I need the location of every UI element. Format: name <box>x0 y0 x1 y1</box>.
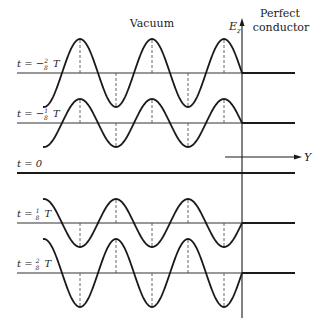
time-snapshots: t = −28 Tt = −18 Tt = 0t = 18 Tt = 28 T <box>17 39 295 307</box>
ez-arrowhead-icon <box>240 18 245 26</box>
snapshot-row: t = 18 T <box>17 199 295 247</box>
conductor-label-line1: Perfect <box>260 7 300 20</box>
time-label: t = 0 <box>17 158 43 169</box>
y-axis-label: Y <box>304 151 313 164</box>
snapshot-row: t = 0 <box>17 158 295 173</box>
standing-wave-diagram: Vacuum Perfect conductor Ez Y t = −28 Tt… <box>0 0 314 334</box>
snapshot-row: t = −28 T <box>17 39 295 107</box>
snapshot-row: t = −18 T <box>17 99 295 147</box>
y-arrowhead-icon <box>294 155 302 160</box>
time-label: t = 18 T <box>17 207 53 221</box>
time-label: t = −18 T <box>17 107 61 121</box>
time-label: t = 28 T <box>17 257 53 271</box>
snapshot-row: t = 28 T <box>17 239 295 307</box>
time-label: t = −28 T <box>17 57 61 71</box>
conductor-label-line2: conductor <box>253 21 310 34</box>
vacuum-label: Vacuum <box>129 17 175 30</box>
ez-axis-label: Ez <box>228 20 241 35</box>
